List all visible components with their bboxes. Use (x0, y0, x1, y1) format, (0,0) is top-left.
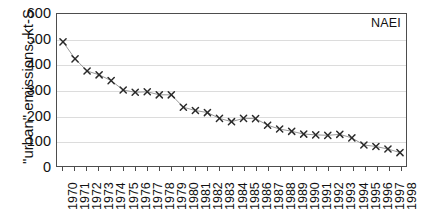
x-tick-mark-1977 (147, 167, 148, 171)
x-tick-label-1996: 1996 (382, 182, 394, 210)
x-tick-mark-1982 (207, 167, 208, 171)
x-tick-mark-1978 (159, 167, 160, 171)
data-point-1994 (349, 135, 355, 141)
x-tick-mark-1988 (280, 167, 281, 171)
x-tick-mark-1990 (304, 167, 305, 171)
x-tick-mark-1994 (353, 167, 354, 171)
data-point-1970 (60, 39, 66, 45)
data-point-1980 (180, 104, 186, 110)
x-tick-label-1985: 1985 (249, 182, 261, 210)
data-point-1983 (216, 115, 222, 121)
y-tick-label-500: 500 (17, 32, 51, 47)
x-tick-mark-1976 (135, 167, 136, 171)
scan-artifact-top-text (8, 0, 308, 4)
data-series-layer (57, 14, 406, 166)
y-tick-label-100: 100 (17, 134, 51, 149)
x-tick-mark-1974 (110, 167, 111, 171)
scan-artifact-right-text (417, 12, 430, 62)
data-point-1974 (108, 78, 114, 84)
x-tick-mark-1995 (365, 167, 366, 171)
x-tick-mark-1986 (256, 167, 257, 171)
x-tick-label-1975: 1975 (128, 182, 140, 210)
x-tick-mark-1991 (316, 167, 317, 171)
x-tick-mark-1981 (195, 167, 196, 171)
x-tick-mark-1996 (377, 167, 378, 171)
x-tick-mark-1985 (244, 167, 245, 171)
x-tick-mark-1975 (123, 167, 124, 171)
emissions-chart-figure: "urban" emissions, kt-S 0100200300400500… (0, 0, 430, 214)
x-tick-mark-1989 (292, 167, 293, 171)
x-tick-label-1998: 1998 (406, 182, 418, 210)
x-tick-mark-1970 (62, 167, 63, 171)
plot-area: NAEI (56, 13, 407, 167)
data-point-1973 (96, 72, 102, 78)
y-tick-label-600: 600 (17, 6, 51, 21)
x-tick-mark-1993 (340, 167, 341, 171)
x-tick-mark-1972 (86, 167, 87, 171)
x-tick-mark-1984 (232, 167, 233, 171)
x-tick-mark-1992 (328, 167, 329, 171)
x-tick-label-1983: 1983 (224, 182, 236, 210)
x-tick-label-1994: 1994 (358, 182, 370, 210)
y-tick-label-300: 300 (17, 83, 51, 98)
chart-annotation-naei: NAEI (371, 16, 401, 30)
data-point-1971 (72, 56, 78, 62)
x-tick-mark-1983 (219, 167, 220, 171)
data-point-1972 (84, 68, 90, 74)
x-axis-tick-labels: 1970197119721973197419751976197719781979… (56, 172, 407, 214)
x-tick-mark-1980 (183, 167, 184, 171)
x-tick-label-1974: 1974 (115, 182, 127, 210)
data-point-1984 (228, 119, 234, 125)
x-tick-mark-1987 (268, 167, 269, 171)
data-point-1987 (265, 122, 271, 128)
x-tick-mark-1998 (401, 167, 402, 171)
x-tick-mark-1979 (171, 167, 172, 171)
x-tick-label-1995: 1995 (370, 182, 382, 210)
x-tick-mark-1971 (74, 167, 75, 171)
y-tick-label-0: 0 (17, 160, 51, 175)
x-tick-label-1987: 1987 (273, 182, 285, 210)
x-tick-label-1977: 1977 (152, 182, 164, 210)
x-tick-label-1986: 1986 (261, 182, 273, 210)
data-point-1998 (397, 150, 403, 156)
x-tick-label-1984: 1984 (237, 182, 249, 210)
y-tick-label-200: 200 (17, 109, 51, 124)
x-tick-label-1976: 1976 (140, 182, 152, 210)
x-tick-label-1993: 1993 (345, 182, 357, 210)
y-tick-label-400: 400 (17, 57, 51, 72)
x-tick-mark-1997 (389, 167, 390, 171)
x-tick-mark-1973 (98, 167, 99, 171)
